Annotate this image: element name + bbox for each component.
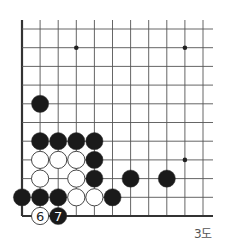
black-stone-icon [50,189,67,206]
black-stone-icon [31,95,48,112]
star-point-icon [183,45,188,50]
black-stone-icon [104,189,121,206]
white-stone-icon [68,170,85,187]
white-stone-icon [31,170,48,187]
black-stone-icon [86,151,103,168]
black-stone-icon [68,133,85,150]
white-stone-icon [86,189,103,206]
white-stone-icon [50,151,67,168]
black-stone-icon [158,170,175,187]
black-stone-icon [122,170,139,187]
black-stone-icon [86,133,103,150]
black-stone-icon [31,189,48,206]
black-stone-icon [50,133,67,150]
black-stone-icon [31,133,48,150]
move-number-label: 7 [54,209,62,224]
white-stone-icon [68,189,85,206]
black-stone-icon [13,189,30,206]
go-board: 67 [0,0,236,244]
diagram-caption: 3도 [194,224,212,241]
white-stone-icon [31,151,48,168]
white-stone-icon [68,151,85,168]
star-point-icon [183,158,188,163]
star-point-icon [74,45,79,50]
move-number-label: 6 [36,209,44,224]
black-stone-icon [86,170,103,187]
